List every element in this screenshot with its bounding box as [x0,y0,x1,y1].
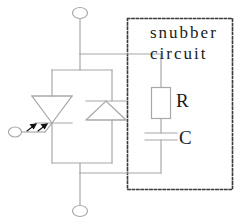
gate-terminal [9,127,22,137]
resistor-body [152,88,171,119]
capacitor-label: C [179,127,192,149]
cathode-terminal [73,206,88,217]
diode-triangle [86,101,126,120]
circuit-diagram: snubber circuit R C [0,0,246,224]
optical-arrow-1 [27,124,36,131]
circuit-label: circuit [150,43,207,64]
resistor-label: R [176,90,189,112]
thyristor-triangle [32,96,72,123]
optical-arrow-2 [38,124,47,131]
snubber-label: snubber [150,22,218,43]
anode-terminal [73,8,88,19]
optical-arrow-group [27,124,47,131]
